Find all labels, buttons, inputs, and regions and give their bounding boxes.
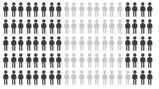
person-icon — [40, 36, 48, 51]
person-icon — [70, 36, 78, 51]
person-icon — [55, 2, 63, 17]
person-icon — [63, 2, 71, 17]
person-icon — [101, 70, 109, 85]
person-icon — [108, 19, 116, 34]
person-icon — [86, 36, 94, 51]
person-icon — [10, 36, 18, 51]
person-icon — [70, 2, 78, 17]
person-icon — [32, 19, 40, 34]
person-icon — [146, 19, 154, 34]
person-icon — [40, 2, 48, 17]
person-icon — [116, 53, 124, 68]
person-icon — [25, 36, 33, 51]
person-icon — [17, 36, 25, 51]
person-icon — [124, 70, 132, 85]
person-icon — [93, 70, 101, 85]
person-icon — [63, 36, 71, 51]
person-icon — [86, 53, 94, 68]
person-icon — [116, 2, 124, 17]
person-icon — [131, 19, 139, 34]
person-icon — [78, 70, 86, 85]
person-icon — [48, 2, 56, 17]
person-icon — [32, 70, 40, 85]
person-icon — [63, 70, 71, 85]
pictogram-row — [2, 19, 158, 34]
person-icon — [40, 19, 48, 34]
person-icon — [131, 2, 139, 17]
person-icon — [124, 53, 132, 68]
person-icon — [40, 70, 48, 85]
person-icon — [116, 36, 124, 51]
person-icon — [146, 36, 154, 51]
person-icon — [146, 2, 154, 17]
person-icon — [124, 36, 132, 51]
person-icon — [139, 36, 147, 51]
person-icon — [93, 36, 101, 51]
person-icon — [86, 70, 94, 85]
person-icon — [101, 19, 109, 34]
person-icon — [131, 70, 139, 85]
person-icon — [25, 2, 33, 17]
person-icon — [108, 36, 116, 51]
person-icon — [86, 19, 94, 34]
person-icon — [25, 19, 33, 34]
person-icon — [63, 19, 71, 34]
person-icon — [139, 53, 147, 68]
person-icon — [124, 2, 132, 17]
person-icon — [10, 53, 18, 68]
person-icon — [116, 19, 124, 34]
person-icon — [10, 19, 18, 34]
person-icon — [101, 53, 109, 68]
pictogram-row — [2, 70, 158, 85]
person-icon — [10, 2, 18, 17]
person-icon — [93, 2, 101, 17]
person-icon — [131, 53, 139, 68]
person-icon — [10, 70, 18, 85]
person-icon — [78, 2, 86, 17]
pictogram-row — [2, 53, 158, 68]
person-icon — [139, 2, 147, 17]
person-icon — [70, 70, 78, 85]
person-icon — [2, 53, 10, 68]
person-icon — [101, 36, 109, 51]
person-icon — [17, 2, 25, 17]
person-icon — [131, 36, 139, 51]
person-icon — [108, 2, 116, 17]
person-icon — [78, 19, 86, 34]
person-icon — [32, 53, 40, 68]
person-icon — [124, 19, 132, 34]
person-icon — [2, 36, 10, 51]
person-icon — [116, 70, 124, 85]
pictogram-chart — [0, 0, 159, 89]
person-icon — [93, 53, 101, 68]
person-icon — [2, 70, 10, 85]
person-icon — [48, 19, 56, 34]
person-icon — [17, 19, 25, 34]
person-icon — [55, 19, 63, 34]
person-icon — [108, 53, 116, 68]
person-icon — [32, 2, 40, 17]
person-icon — [78, 36, 86, 51]
person-icon — [2, 2, 10, 17]
person-icon — [17, 70, 25, 85]
person-icon — [48, 70, 56, 85]
person-icon — [55, 36, 63, 51]
person-icon — [139, 19, 147, 34]
person-icon — [55, 70, 63, 85]
person-icon — [25, 53, 33, 68]
person-icon — [17, 53, 25, 68]
person-icon — [63, 53, 71, 68]
pictogram-row — [2, 2, 158, 17]
person-icon — [70, 19, 78, 34]
person-icon — [146, 70, 154, 85]
person-icon — [70, 53, 78, 68]
person-icon — [32, 36, 40, 51]
person-icon — [40, 53, 48, 68]
person-icon — [101, 2, 109, 17]
person-icon — [139, 70, 147, 85]
person-icon — [93, 19, 101, 34]
pictogram-row — [2, 36, 158, 51]
person-icon — [48, 36, 56, 51]
person-icon — [2, 19, 10, 34]
person-icon — [146, 53, 154, 68]
